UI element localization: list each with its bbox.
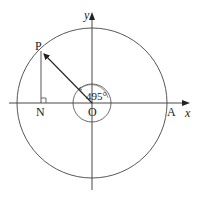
y-axis-arrow-icon (89, 12, 95, 20)
label-angle: 495° (86, 90, 107, 102)
right-angle-icon (41, 98, 46, 103)
label-point-n: N (36, 105, 45, 119)
label-y-axis: y (83, 8, 90, 22)
label-x-axis: x (184, 106, 191, 120)
radius-op (44, 54, 92, 103)
label-point-p: P (35, 39, 42, 53)
diagram-canvas: P N O A x y 495° (0, 0, 198, 200)
label-origin: O (88, 105, 97, 119)
label-point-a: A (167, 105, 176, 119)
unit-circle-diagram: P N O A x y 495° (0, 0, 198, 200)
